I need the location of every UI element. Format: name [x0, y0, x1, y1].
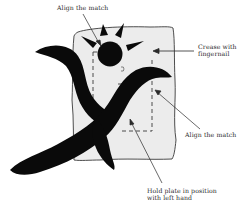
label-text: Align the match	[185, 131, 236, 138]
label-hold-plate: Hold plate in position with left hand	[147, 187, 217, 202]
label-align-the-match-right: Align the match	[185, 131, 236, 138]
label-text-line2: fingernail	[198, 50, 237, 57]
label-align-the-match-top: Align the match	[57, 4, 108, 11]
label-text-line1: Hold plate in position	[147, 187, 217, 194]
sun-disc	[98, 42, 123, 67]
registration-diagram	[0, 0, 241, 207]
label-crease-with-fingernail: Crease with fingernail	[198, 43, 237, 58]
label-text-line2: with left hand	[147, 194, 217, 201]
label-text: Align the match	[57, 4, 108, 11]
label-text-line1: Crease with	[198, 43, 237, 50]
